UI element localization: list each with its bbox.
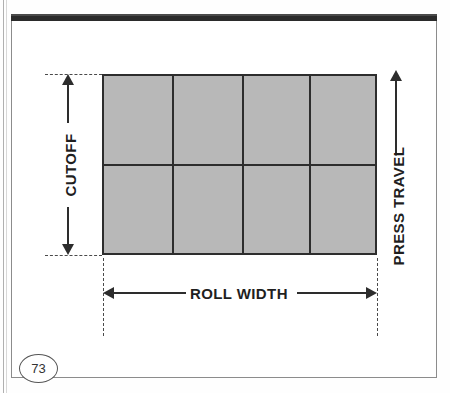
roll-width-arrow-left-icon [103, 287, 114, 299]
cutoff-arrow-up-icon [62, 74, 74, 85]
roll-width-dimension-line-left [107, 292, 187, 294]
press-travel-dimension-line [395, 76, 397, 158]
press-sheet [102, 74, 377, 255]
page-spine-line-secondary [6, 0, 7, 393]
roll-width-arrow-right-icon [366, 287, 377, 299]
figure-page: CUTOFF ROLL WIDTH PRESS TRAVEL 73 [0, 0, 450, 393]
grid-divider-horizontal-1 [104, 164, 375, 166]
roll-width-dimension-line-right [297, 292, 373, 294]
cutoff-extension-line-bottom [45, 255, 102, 256]
figure-top-bar-highlight [11, 14, 437, 16]
cutoff-label: CUTOFF [59, 137, 82, 197]
roll-width-extension-line-right [377, 258, 378, 336]
press-travel-arrow-up-icon [390, 70, 402, 81]
roll-width-label: ROLL WIDTH [186, 285, 292, 302]
press-travel-label: PRESS TRAVEL [387, 156, 410, 266]
cutoff-arrow-down-icon [62, 244, 74, 255]
page-number-text: 73 [31, 361, 45, 376]
page-spine-line [3, 0, 4, 393]
page-number-badge: 73 [19, 354, 58, 383]
